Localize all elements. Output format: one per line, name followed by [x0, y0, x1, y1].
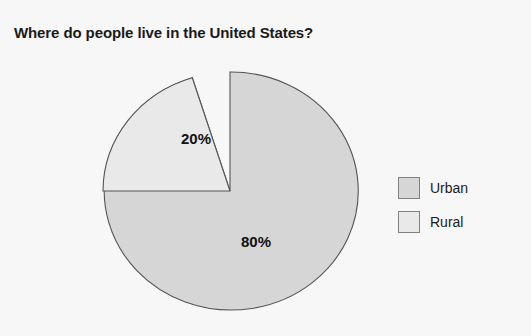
legend-item-rural[interactable]: Rural	[398, 210, 518, 234]
pie-slice-label-urban: 80%	[241, 233, 271, 250]
page-title: Where do people live in the United State…	[14, 24, 313, 41]
legend-swatch-rural-icon	[398, 211, 420, 233]
chart-legend: Urban Rural	[398, 176, 518, 244]
legend-item-urban[interactable]: Urban	[398, 176, 518, 200]
pie-slice-label-rural: 20%	[181, 130, 211, 147]
legend-label-urban: Urban	[430, 181, 468, 195]
pie-chart-svg: 20% 80%	[103, 72, 357, 310]
legend-swatch-urban-icon	[398, 177, 420, 199]
legend-label-rural: Rural	[430, 215, 463, 229]
pie-chart-figure: Where do people live in the United State…	[0, 0, 531, 336]
pie-chart-plot-area: 20% 80%	[103, 72, 357, 310]
